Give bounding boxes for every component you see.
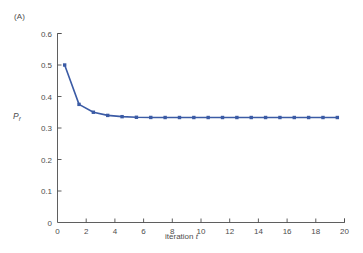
series-marker xyxy=(278,116,281,119)
series-marker xyxy=(92,111,95,114)
axis-lines xyxy=(58,34,345,223)
data-series xyxy=(63,63,339,119)
series-marker xyxy=(163,116,166,119)
series-marker xyxy=(135,116,138,119)
axis-ticks xyxy=(58,34,345,223)
series-marker xyxy=(221,116,224,119)
series-line xyxy=(65,65,338,118)
series-marker xyxy=(293,116,296,119)
series-marker xyxy=(178,116,181,119)
series-marker xyxy=(321,116,324,119)
series-marker xyxy=(106,114,109,117)
series-marker xyxy=(192,116,195,119)
series-marker xyxy=(307,116,310,119)
series-marker xyxy=(77,103,80,106)
series-marker xyxy=(149,116,152,119)
series-marker xyxy=(336,116,339,119)
series-marker xyxy=(206,116,209,119)
plot-area xyxy=(0,0,363,253)
series-marker xyxy=(250,116,253,119)
series-marker xyxy=(120,115,123,118)
series-marker xyxy=(63,63,66,66)
series-marker xyxy=(264,116,267,119)
series-marker xyxy=(235,116,238,119)
axis-spines xyxy=(58,34,345,223)
figure-panel-a: (A) Pf iteration t 00.10.20.30.40.50.6 0… xyxy=(0,0,363,253)
